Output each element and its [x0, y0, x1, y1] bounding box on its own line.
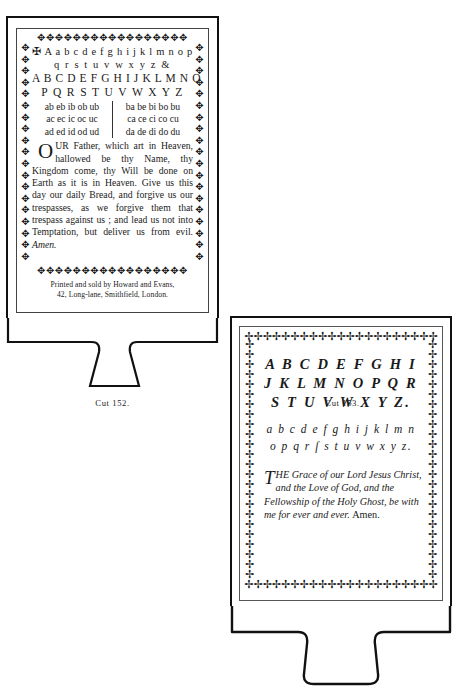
hornbook-cut-152: ✥✥✥✥✥✥✥✥✥✥✥✥✥✥✥✥✥ ✥✥✥✥✥✥✥✥✥✥✥✥✥✥✥✥✥ ✥✥✥✥… [6, 16, 219, 318]
hornbook-leaf-right: ✢✢✢✢✢✢✢✢✢✢✢✢✢✢✢✢✢✢✢✢✢ ✢✢✢✢✢✢✢✢✢✢✢✢✢✢✢✢✢✢… [244, 331, 438, 597]
lowercase-row-2: o p q r ſ s t u v w x y z. [258, 439, 424, 454]
hornbook-leaf-left: ✥✥✥✥✥✥✥✥✥✥✥✥✥✥✥✥✥ ✥✥✥✥✥✥✥✥✥✥✥✥✥✥✥✥✥ ✥✥✥✥… [20, 32, 205, 309]
lords-prayer: OUR Father, which art in Heaven, hallowe… [32, 140, 193, 251]
alphabet-row-2: q r s t u v w x y z & [32, 58, 193, 71]
hornbook-cut-153: ✢✢✢✢✢✢✢✢✢✢✢✢✢✢✢✢✢✢✢✢✢ ✢✢✢✢✢✢✢✢✢✢✢✢✢✢✢✢✢✢… [230, 316, 452, 606]
ornament-border-top-left: ✥✥✥✥✥✥✥✥✥✥✥✥✥✥✥✥✥ [20, 32, 205, 43]
grace-body: HE Grace of our Lord Jesus Christ, and t… [264, 469, 422, 520]
syllable-cell: da de di do du [113, 126, 194, 138]
capital-row-2: J K L M N O P Q R [258, 374, 424, 393]
grace-amen: Amen. [352, 509, 379, 520]
prayer-amen: Amen. [32, 239, 56, 250]
ornament-border-left-right: ✢✢✢✢✢✢✢✢✢✢✢✢✢✢✢✢✢✢✢✢✢✢✢✢ [244, 340, 255, 580]
alphabet-row-4: P Q R S T U V W X Y Z [32, 85, 193, 99]
ornament-border-bottom-right: ✢✢✢✢✢✢✢✢✢✢✢✢✢✢✢✢✢✢✢✢✢ [244, 579, 438, 590]
dropcap-o: O [38, 141, 53, 161]
table-row: ac ec ic oc uc ca ce ci co cu [32, 113, 193, 125]
alphabet-row-3: A B C D E F G H I J K L M N O [32, 71, 193, 85]
alphabet-row-1: ✠ A a b c d e f g h i j k l m n o p [32, 45, 193, 58]
caption-cut-152: Cut 152. [60, 398, 165, 408]
syllable-cell: ba be bi bo bu [113, 101, 194, 113]
table-row: ad ed id od ud da de di do du [32, 126, 193, 138]
imprint-line-1: Printed and sold by Howard and Evans, [32, 280, 193, 290]
capital-row-1: A B C D E F G H I [258, 355, 424, 374]
syllable-cell: ad ed id od ud [32, 126, 113, 138]
dropcap-t: T [264, 470, 275, 485]
ornament-border-top-right: ✢✢✢✢✢✢✢✢✢✢✢✢✢✢✢✢✢✢✢✢✢ [244, 331, 438, 342]
imprint-left: Printed and sold by Howard and Evans, 42… [32, 280, 193, 300]
hornbook-handle-left [6, 316, 219, 394]
hornbook-text-block-right: A B C D E F G H I J K L M N O P Q R S T … [258, 347, 424, 575]
syllable-cell: ab eb ib ob ub [32, 101, 113, 113]
hornbook-handle-right [230, 604, 452, 688]
grace-benediction: THE Grace of our Lord Jesus Christ, and … [258, 468, 424, 522]
table-row: ab eb ib ob ub ba be bi bo bu [32, 101, 193, 113]
lowercase-row-1: a b c d e f g h i j k l m n [258, 422, 424, 437]
syllable-cell: ac ec ic oc uc [32, 113, 113, 125]
ornament-border-right-right: ✢✢✢✢✢✢✢✢✢✢✢✢✢✢✢✢✢✢✢✢✢✢✢✢ [427, 340, 438, 580]
prayer-body: UR Father, which art in Heaven, hallowed… [32, 140, 193, 237]
caption-cut-153: Cut 153. [290, 398, 395, 408]
syllabarium-table: ab eb ib ob ub ba be bi bo bu ac ec ic o… [32, 101, 193, 138]
ornament-border-bottom-left: ✥✥✥✥✥✥✥✥✥✥✥✥✥✥✥✥✥ [20, 265, 205, 276]
hornbook-text-block-left: ✠ A a b c d e f g h i j k l m n o p q r … [32, 44, 193, 264]
imprint-line-2: 42, Long-lane, Smithfield, London. [32, 290, 193, 300]
ornament-border-left-left: ✥✥✥✥✥✥✥✥✥✥✥✥✥✥✥✥✥✥✥ [20, 42, 31, 265]
syllable-cell: ca ce ci co cu [113, 113, 194, 125]
